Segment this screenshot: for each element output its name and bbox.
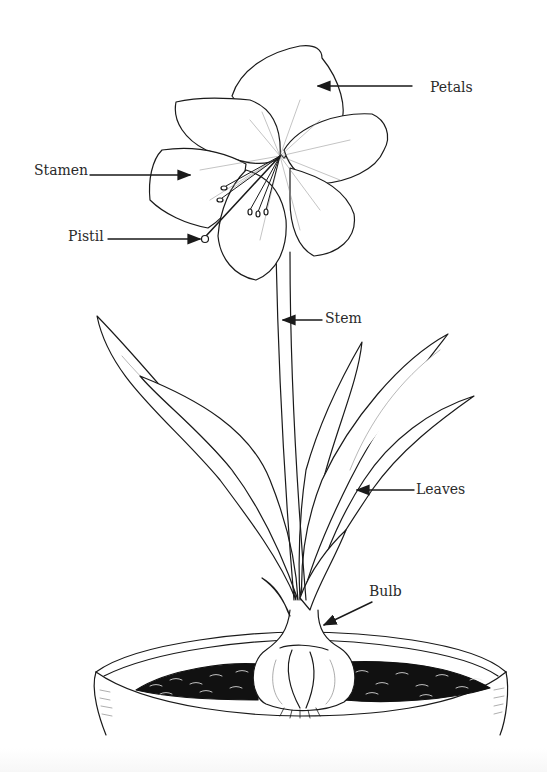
- page-bottom-edge: [0, 748, 547, 772]
- leaves: [97, 316, 474, 616]
- amaryllis-diagram: Petals Stamen Pistil Stem Leaves Bulb: [0, 0, 547, 772]
- bulb: [253, 610, 355, 718]
- label-stem: Stem: [325, 311, 362, 325]
- amaryllis-illustration: [0, 0, 547, 772]
- label-leaves: Leaves: [416, 482, 465, 496]
- label-stamen: Stamen: [34, 163, 88, 177]
- arrow-bulb: [324, 602, 372, 625]
- label-bulb: Bulb: [369, 584, 402, 598]
- label-pistil: Pistil: [68, 229, 104, 243]
- label-petals: Petals: [430, 80, 473, 94]
- flower: [150, 46, 388, 280]
